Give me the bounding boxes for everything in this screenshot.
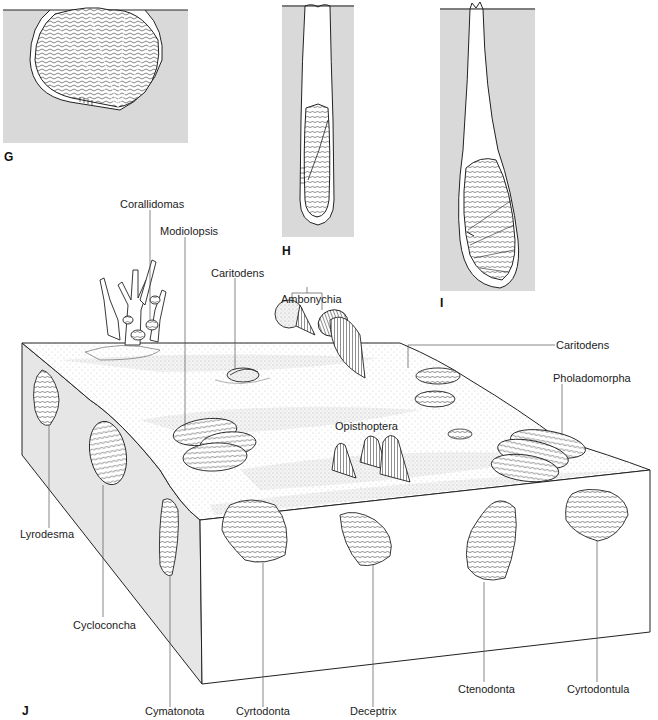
illustration xyxy=(0,0,658,720)
label-cyrtodontula: Cyrtodontula xyxy=(567,683,629,695)
figure-canvas: G H I J Corallidomas Modiolopsis Caritod… xyxy=(0,0,658,720)
label-cycloconcha: Cycloconcha xyxy=(73,619,136,631)
label-modiolopsis: Modiolopsis xyxy=(160,225,218,237)
label-ambonychia: Ambonychia xyxy=(281,293,342,305)
label-corallidomas: Corallidomas xyxy=(120,198,184,210)
panel-h-illustration xyxy=(282,5,354,237)
label-opisthoptera: Opisthoptera xyxy=(335,420,398,432)
panel-i-illustration xyxy=(440,2,535,291)
label-caritodens-top: Caritodens xyxy=(211,267,264,279)
label-cyrtodonta: Cyrtodonta xyxy=(236,705,290,717)
label-caritodens-right: Caritodens xyxy=(556,339,609,351)
panel-j-block-diagram xyxy=(22,210,650,707)
small-shell xyxy=(448,429,472,439)
panel-label-i: I xyxy=(440,296,443,310)
label-pholadomorpha: Pholadomorpha xyxy=(553,372,631,384)
panel-g-illustration xyxy=(3,8,188,143)
panel-label-j: J xyxy=(22,704,29,718)
label-deceptrix: Deceptrix xyxy=(350,705,396,717)
panel-label-h: H xyxy=(282,244,291,258)
label-lyrodesma: Lyrodesma xyxy=(20,528,74,540)
panel-label-g: G xyxy=(4,150,13,164)
label-cymatonota: Cymatonota xyxy=(145,705,204,717)
label-ctenodonta: Ctenodonta xyxy=(458,683,515,695)
corallidomas-coral xyxy=(100,260,166,345)
